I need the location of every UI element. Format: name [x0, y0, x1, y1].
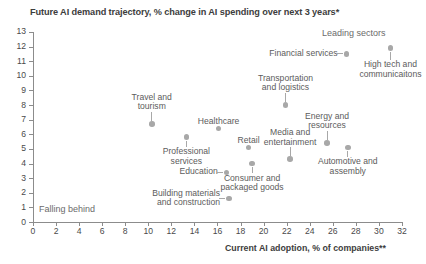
y-tick	[29, 178, 33, 179]
data-point-label: Travel and tourism	[92, 93, 212, 112]
x-tick-label: 28	[344, 227, 368, 236]
x-tick-label: 14	[182, 227, 206, 236]
y-tick-label: 13	[0, 27, 26, 36]
y-tick	[29, 207, 33, 208]
x-tick-label: 20	[252, 227, 276, 236]
y-tick	[29, 164, 33, 165]
data-point[interactable]	[216, 126, 222, 132]
y-tick	[29, 32, 33, 33]
x-tick-label: 2	[44, 227, 68, 236]
y-tick	[29, 61, 33, 62]
label-leader-line	[186, 141, 187, 147]
y-tick-label: 9	[0, 86, 26, 95]
data-point-label: Building materials and construction	[152, 189, 220, 208]
y-tick	[29, 105, 33, 106]
chart-title: Future AI demand trajectory, % change in…	[30, 7, 339, 17]
x-tick-label: 8	[113, 227, 137, 236]
x-tick-label: 16	[205, 227, 229, 236]
y-tick-label: 6	[0, 130, 26, 139]
x-tick-label: 10	[136, 227, 160, 236]
data-point[interactable]	[249, 161, 255, 167]
annotation-falling-behind: Falling behind	[39, 204, 95, 214]
x-tick-label: 22	[275, 227, 299, 236]
data-point[interactable]	[283, 102, 289, 108]
y-tick-label: 10	[0, 71, 26, 80]
y-tick	[29, 193, 33, 194]
x-axis-caption: Current AI adoption, % of companies**	[225, 243, 386, 253]
data-point[interactable]	[226, 196, 232, 202]
label-leader-line	[347, 151, 348, 157]
y-tick-label: 12	[0, 42, 26, 51]
data-point-label: Education	[179, 167, 217, 177]
data-point-label: Media and entertainment	[230, 128, 350, 147]
y-tick-label: 0	[0, 218, 26, 227]
x-tick-label: 18	[229, 227, 253, 236]
annotation-leading-sectors: Leading sectors	[322, 28, 386, 38]
label-leader-line	[217, 172, 223, 173]
x-tick-label: 0	[21, 227, 45, 236]
data-point[interactable]	[388, 45, 394, 51]
data-point-label: Transportation and logistics	[226, 74, 346, 93]
y-tick-label: 2	[0, 188, 26, 197]
label-leader-line	[219, 198, 225, 199]
data-point[interactable]	[344, 51, 350, 57]
y-tick-label: 5	[0, 144, 26, 153]
x-tick-label: 12	[159, 227, 183, 236]
label-leader-line	[252, 167, 253, 173]
x-tick-label: 6	[90, 227, 114, 236]
label-leader-line	[337, 53, 343, 54]
y-tick	[29, 47, 33, 48]
label-leader-line	[151, 112, 152, 121]
y-tick	[29, 120, 33, 121]
y-tick	[29, 76, 33, 77]
label-leader-line	[290, 147, 291, 156]
y-tick-label: 1	[0, 203, 26, 212]
data-point-label: Healthcare	[159, 117, 279, 127]
label-leader-line	[285, 93, 286, 102]
y-tick-label: 3	[0, 174, 26, 183]
x-tick-label: 30	[367, 227, 391, 236]
x-tick-label: 4	[67, 227, 91, 236]
x-tick-label: 24	[298, 227, 322, 236]
y-tick-label: 7	[0, 115, 26, 124]
y-tick-label: 8	[0, 101, 26, 110]
data-point[interactable]	[149, 121, 155, 127]
data-point-label: Financial services	[269, 49, 337, 59]
y-tick-label: 4	[0, 159, 26, 168]
x-tick-label: 26	[321, 227, 345, 236]
label-leader-line	[390, 52, 391, 60]
x-tick-label: 32	[390, 227, 414, 236]
y-tick-label: 11	[0, 57, 26, 66]
data-point-label: Professional services	[126, 147, 246, 166]
y-tick	[29, 90, 33, 91]
y-tick	[29, 149, 33, 150]
y-tick	[29, 134, 33, 135]
y-axis-line	[33, 32, 34, 222]
